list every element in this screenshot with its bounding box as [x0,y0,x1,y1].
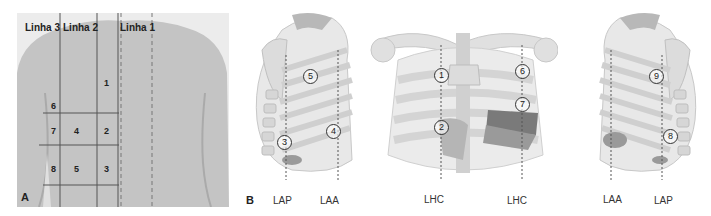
point-7: 7 [515,97,530,112]
point-3: 3 [277,135,292,150]
panel-b-letter: B [246,194,254,206]
zone-3: 3 [104,164,109,174]
anterior-ribcage: 1 2 6 7 [368,25,558,180]
right-lateral-ribcage: 9 8 [590,10,700,180]
zone-2: 2 [104,126,109,136]
point-2: 2 [434,120,449,135]
back-illustration [17,13,229,207]
line-2-label: Linha 2 [63,22,98,33]
panel-a-back-photo: Linha 3 Linha 2 Linha 1 1 6 7 4 2 8 5 3 … [17,13,229,207]
panel-a-letter: A [21,191,29,203]
right-laa-label: LAA [603,194,622,205]
zone-5: 5 [74,164,79,174]
line-1-label: Linha 1 [120,22,155,33]
point-4: 4 [326,124,341,139]
front-lhc-right-label: LHC [507,195,527,206]
left-ribcage-illustration [252,10,362,180]
right-lap-label: LAP [654,195,673,206]
zone-7: 7 [51,126,56,136]
point-1: 1 [434,68,449,83]
point-5: 5 [303,69,318,84]
zone-1: 1 [104,78,109,88]
point-6: 6 [515,64,530,79]
left-lateral-ribcage: 5 4 3 [252,10,362,180]
zone-6: 6 [51,101,56,111]
point-9: 9 [649,69,664,84]
zone-8: 8 [51,164,56,174]
left-lap-label: LAP [273,195,292,206]
right-ribcage-illustration [590,10,700,180]
left-laa-label: LAA [320,195,339,206]
point-8: 8 [663,129,678,144]
line-3-label: Linha 3 [25,22,60,33]
front-lhc-left-label: LHC [424,194,444,205]
zone-4: 4 [74,126,79,136]
